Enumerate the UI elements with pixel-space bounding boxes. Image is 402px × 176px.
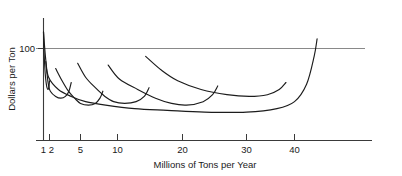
x-tick-label-2: 2 — [49, 144, 54, 155]
x-tick-label-20: 20 — [177, 144, 188, 155]
x-tick-label-10: 10 — [112, 144, 123, 155]
x-axis-ticks — [44, 134, 295, 140]
x-tick-label-5: 5 — [78, 144, 83, 155]
cost-curve-chart: 1 2 5 10 20 30 40 100 Millions of Tons p… — [0, 0, 402, 176]
chart-plot-area: 1 2 5 10 20 30 40 100 Millions of Tons p… — [0, 0, 402, 176]
y-tick-label-100: 100 — [19, 43, 35, 54]
short-run-curve-4 — [78, 63, 149, 103]
x-axis-title: Millions of Tons per Year — [154, 159, 257, 170]
long-run-envelope-curve — [44, 32, 318, 113]
x-tick-label-40: 40 — [289, 144, 300, 155]
cost-curves-group — [44, 32, 318, 113]
y-axis-title: Dollars per Ton — [6, 47, 17, 111]
x-tick-label-1: 1 — [41, 144, 46, 155]
x-tick-label-30: 30 — [241, 144, 252, 155]
